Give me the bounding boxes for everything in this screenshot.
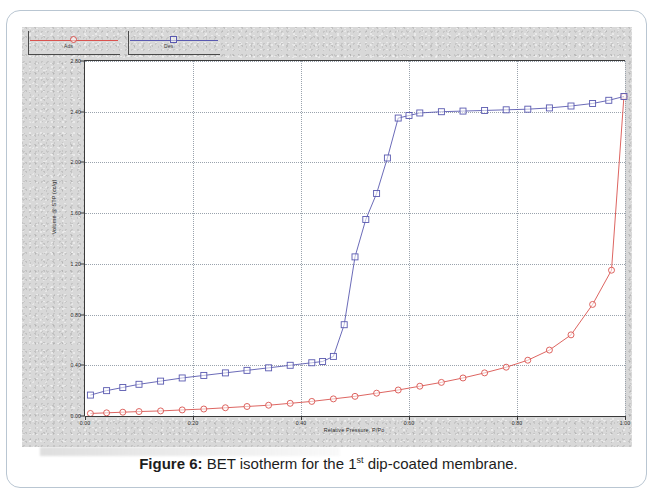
y-tick-label: 2.80 [71, 58, 82, 64]
series-marker-ads [287, 400, 293, 406]
series-marker-ads [525, 357, 531, 363]
x-tick-label: 1.00 [620, 420, 631, 426]
series-marker-ads [179, 407, 185, 413]
series-marker-des [417, 110, 423, 116]
y-tick-label: 0.00 [71, 413, 82, 419]
series-marker-des [482, 107, 488, 113]
series-marker-des [158, 378, 164, 384]
y-tick-label: 2.00 [71, 159, 82, 165]
caption-text-part1: BET isotherm for the 1 [203, 455, 357, 472]
x-tick-label: 0.20 [188, 420, 199, 426]
series-marker-ads [330, 396, 336, 402]
series-marker-ads [201, 406, 207, 412]
plot-inner: 0.000.400.801.201.602.002.402.800.000.20… [85, 61, 625, 416]
caption-text-part2: dip-coated membrane. [364, 455, 518, 472]
series-marker-ads [158, 408, 164, 414]
series-marker-des [222, 370, 228, 376]
series-marker-ads [417, 383, 423, 389]
series-marker-des [384, 155, 390, 161]
series-marker-des [525, 106, 531, 112]
series-marker-des [104, 388, 110, 394]
chart-legend: Ads Des [28, 31, 224, 55]
legend-rule-left [28, 31, 29, 55]
series-marker-des [406, 113, 412, 119]
series-marker-des [330, 353, 336, 359]
series-marker-ads [438, 379, 444, 385]
legend-rule-left [128, 31, 129, 55]
series-marker-ads [568, 332, 574, 338]
series-marker-des [287, 362, 293, 368]
series-marker-ads [120, 409, 126, 415]
series-marker-des [201, 372, 207, 378]
gridline-vertical [625, 61, 626, 416]
series-marker-ads [482, 370, 488, 376]
series-marker-des [460, 108, 466, 114]
legend-rule-bottom [28, 54, 120, 55]
legend-rule-bottom [128, 54, 220, 55]
series-marker-des [621, 94, 627, 100]
series-marker-ads [136, 409, 142, 415]
series-line-des [90, 97, 624, 396]
series-marker-ads [266, 402, 272, 408]
series-marker-des [546, 105, 552, 111]
x-tick-label: 0.60 [404, 420, 415, 426]
series-marker-des [363, 216, 369, 222]
series-marker-ads [609, 267, 615, 273]
x-axis-line [85, 416, 625, 417]
x-tick-label: 0.00 [80, 420, 91, 426]
series-marker-ads [395, 387, 401, 393]
series-marker-ads [503, 364, 509, 370]
series-marker-des [503, 107, 509, 113]
series-marker-ads [222, 405, 228, 411]
legend-label-des: Des [164, 43, 174, 49]
series-marker-des [320, 358, 326, 364]
series-marker-des [341, 322, 347, 328]
x-tick-label: 0.80 [512, 420, 523, 426]
series-marker-des [87, 392, 93, 398]
series-marker-ads [460, 375, 466, 381]
y-tick-label: 0.40 [71, 362, 82, 368]
legend-marker-circle-icon [70, 36, 77, 43]
series-marker-des [374, 190, 380, 196]
legend-entry-ads: Ads [28, 31, 120, 55]
y-tick-label: 1.60 [71, 210, 82, 216]
y-tick-label: 2.40 [71, 109, 82, 115]
x-tick-label: 0.40 [296, 420, 307, 426]
series-marker-ads [309, 398, 315, 404]
figure-caption: Figure 6: BET isotherm for the 1st dip-c… [0, 455, 657, 472]
x-axis-title: Relative Pressure, P/Po [324, 427, 385, 433]
series-marker-des [438, 109, 444, 115]
y-axis-title: Volume @ STP (cc/g) [51, 180, 57, 235]
plot-area: 0.000.400.801.201.602.002.402.800.000.20… [84, 60, 625, 416]
series-marker-des [120, 384, 126, 390]
series-marker-des [395, 115, 401, 121]
series-marker-ads [352, 393, 358, 399]
y-tick-label: 0.80 [71, 312, 82, 318]
series-marker-ads [590, 301, 596, 307]
caption-superscript: st [357, 455, 364, 465]
data-series-svg [85, 61, 625, 416]
series-marker-des [179, 375, 185, 381]
legend-marker-square-icon [170, 36, 177, 43]
series-marker-ads [374, 390, 380, 396]
series-marker-des [606, 97, 612, 103]
series-marker-des [266, 365, 272, 371]
series-marker-des [136, 381, 142, 387]
series-marker-des [244, 367, 250, 373]
scanned-figure: Ads Des Volume @ STP (cc/g) Relative Pre… [22, 27, 632, 447]
series-marker-des [352, 254, 358, 260]
series-marker-des [568, 103, 574, 109]
series-marker-des [309, 360, 315, 366]
series-marker-ads [244, 403, 250, 409]
legend-label-ads: Ads [64, 43, 73, 49]
caption-figure-number: Figure 6: [139, 455, 202, 472]
series-marker-ads [104, 410, 110, 416]
series-marker-des [590, 100, 596, 106]
series-marker-ads [546, 347, 552, 353]
legend-entry-des: Des [128, 31, 220, 55]
y-tick-label: 1.20 [71, 261, 82, 267]
